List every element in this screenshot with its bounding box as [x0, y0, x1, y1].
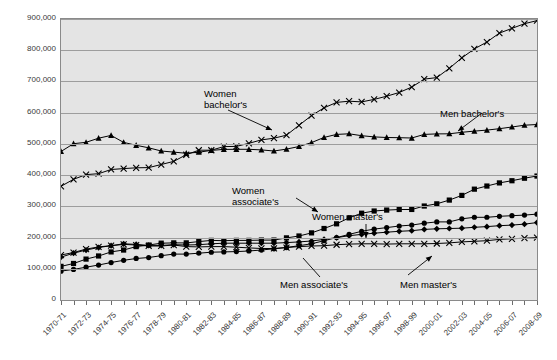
- series-line: [61, 21, 537, 187]
- data-point: [121, 258, 126, 263]
- data-point: [434, 226, 440, 232]
- x-tick-mark: [274, 301, 275, 305]
- data-point: [171, 252, 176, 257]
- data-point: [509, 25, 515, 31]
- data-point: [434, 219, 439, 224]
- data-point: [184, 252, 189, 257]
- x-tick-mark: [174, 301, 175, 305]
- data-point: [83, 256, 88, 261]
- x-tick-mark: [324, 301, 325, 305]
- data-point: [459, 193, 464, 198]
- x-tick-mark: [437, 301, 438, 305]
- x-tick-mark: [499, 301, 500, 305]
- plot-svg: [61, 19, 537, 300]
- data-point: [109, 249, 114, 254]
- line-chart: 900,000800,000700,000600,000500,000400,0…: [0, 0, 557, 360]
- data-point: [108, 132, 114, 138]
- x-tick-mark: [512, 301, 513, 305]
- data-point: [384, 207, 389, 212]
- x-tick-mark: [286, 301, 287, 305]
- data-point: [521, 221, 527, 227]
- x-tick-mark: [524, 301, 525, 305]
- data-point: [471, 224, 477, 230]
- data-point: [71, 261, 76, 266]
- y-tick-label: 900,000: [0, 13, 56, 22]
- data-point: [447, 219, 452, 224]
- x-tick-mark: [399, 301, 400, 305]
- x-tick-mark: [99, 301, 100, 305]
- annotation-women-associates-line1: Women: [232, 185, 279, 196]
- series-women-bachelor-s: [61, 19, 537, 189]
- x-tick-mark: [349, 301, 350, 305]
- x-tick-mark: [86, 301, 87, 305]
- series-men-master-s: [61, 219, 537, 260]
- data-point: [534, 212, 537, 217]
- annotation-women-associates-line2: associate's: [232, 196, 279, 207]
- data-point: [409, 228, 415, 234]
- gridline: [61, 206, 537, 207]
- x-tick-mark: [261, 301, 262, 305]
- x-tick-mark: [61, 301, 62, 305]
- series-line: [61, 176, 537, 266]
- series-women-associate-s: [61, 173, 537, 269]
- data-point: [484, 224, 490, 230]
- data-point: [384, 229, 390, 235]
- y-tick-label: 100,000: [0, 263, 56, 272]
- data-point: [309, 230, 314, 235]
- data-point: [196, 251, 201, 256]
- data-point: [134, 256, 139, 261]
- annotation-women-bachelors-line1: Women: [204, 88, 247, 99]
- data-point: [396, 90, 402, 96]
- data-point: [422, 221, 427, 226]
- y-tick-label: 600,000: [0, 107, 56, 116]
- data-point: [384, 93, 390, 99]
- data-point: [509, 213, 514, 218]
- series-men-bachelor-s: [61, 121, 537, 156]
- x-tick-mark: [424, 301, 425, 305]
- data-point: [221, 249, 226, 254]
- data-point: [371, 230, 377, 236]
- y-tick-label: 400,000: [0, 169, 56, 178]
- data-point: [472, 215, 477, 220]
- y-tick-label: 300,000: [0, 200, 56, 209]
- data-point: [397, 207, 402, 212]
- x-tick-mark: [236, 301, 237, 305]
- data-point: [446, 225, 452, 231]
- y-tick-label: 800,000: [0, 44, 56, 53]
- x-tick-mark: [299, 301, 300, 305]
- data-point: [496, 30, 502, 36]
- data-point: [96, 253, 101, 258]
- data-point: [121, 247, 126, 252]
- data-point: [296, 122, 302, 128]
- data-point: [71, 176, 77, 182]
- gridline: [61, 175, 537, 176]
- x-tick-mark: [124, 301, 125, 305]
- data-point: [522, 176, 527, 181]
- data-point: [459, 225, 465, 231]
- data-point: [421, 226, 427, 232]
- x-tick-mark: [211, 301, 212, 305]
- x-tick-mark: [487, 301, 488, 305]
- x-tick-mark: [149, 301, 150, 305]
- data-point: [496, 223, 502, 229]
- plot-area: [60, 18, 538, 301]
- x-tick-mark: [111, 301, 112, 305]
- y-tick-label: 700,000: [0, 75, 56, 84]
- x-tick-mark: [449, 301, 450, 305]
- data-point: [459, 55, 465, 61]
- x-tick-mark: [462, 301, 463, 305]
- data-point: [459, 216, 464, 221]
- data-point: [96, 262, 101, 267]
- data-point: [409, 207, 414, 212]
- data-point: [509, 178, 514, 183]
- data-point: [409, 222, 414, 227]
- data-point: [171, 158, 177, 164]
- data-point: [497, 214, 502, 219]
- data-point: [472, 187, 477, 192]
- annotation-men-masters: Men master's: [400, 279, 457, 290]
- x-tick-mark: [186, 301, 187, 305]
- x-tick-mark: [362, 301, 363, 305]
- data-point: [397, 223, 402, 228]
- x-tick-mark: [474, 301, 475, 305]
- gridline: [61, 269, 537, 270]
